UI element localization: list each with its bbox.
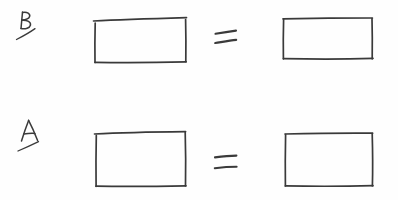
rectangle-b-right-hit	[281, 16, 375, 62]
equals-sign-a	[211, 151, 241, 173]
rectangle-b-left	[93, 16, 189, 65]
equals-sign-b	[211, 26, 241, 48]
equals-sign-b-hit	[211, 26, 241, 48]
rectangle-b-right	[281, 16, 375, 62]
row-label-b	[12, 6, 44, 46]
equals-sign-a-hit	[211, 151, 241, 173]
row-label-a	[14, 115, 46, 157]
rectangle-a-left-hit	[93, 129, 189, 189]
row-label-b-hit	[12, 6, 44, 46]
sketch-surface	[0, 0, 398, 200]
row-label-a-hit	[14, 115, 46, 157]
rectangle-a-left	[93, 129, 189, 189]
rectangle-a-right-hit	[283, 130, 377, 189]
rectangle-b-left-hit	[93, 16, 189, 65]
drawing-canvas: Two hand-drawn equations of blank rectan…	[0, 0, 398, 200]
rectangle-a-right	[283, 130, 377, 189]
